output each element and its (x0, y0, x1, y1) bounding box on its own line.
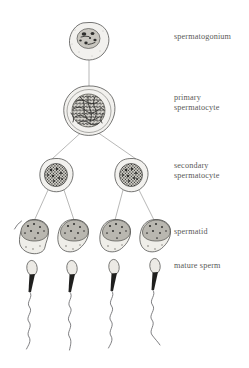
mature-sperm-1-head (26, 260, 38, 276)
spermatogenesis-diagram: spermatogonium primary spermatocyte seco… (0, 0, 249, 368)
label-secondary-spermatocyte-line2: spermatocyte (174, 171, 220, 180)
cell-primary-spermatocyte (64, 86, 115, 135)
cell-mature-sperm-2 (66, 260, 78, 350)
cell-secondary-spermatocyte-right (115, 158, 148, 191)
mature-sperm-3-flagellum (109, 291, 113, 348)
mature-sperm-4-flagellum (151, 290, 160, 345)
mature-sperm-2-midpiece (69, 274, 76, 292)
cell-spermatogonium (69, 22, 108, 60)
mature-sperm-2-flagellum (68, 292, 71, 350)
cell-spermatid-3 (100, 219, 131, 251)
connector-secondary-left-to-spermatid-2 (64, 190, 74, 220)
cell-mature-sperm-1 (26, 260, 38, 349)
cell-spermatid-2 (58, 219, 89, 251)
label-spermatid: spermatid (174, 227, 208, 236)
mature-sperm-2-head (66, 260, 78, 276)
connector-secondary-left-to-spermatid-1 (35, 190, 49, 220)
label-mature-sperm: mature sperm (174, 261, 221, 270)
diagram-canvas: spermatogonium primary spermatocyte seco… (0, 0, 249, 368)
cell-secondary-spermatocyte-left (40, 158, 73, 191)
connector-secondary-right-to-spermatid-4 (139, 190, 154, 220)
cell-mature-sperm-4 (149, 258, 161, 345)
connector-secondary-right-to-spermatid-3 (115, 190, 123, 220)
mature-sperm-4-midpiece (152, 272, 159, 290)
spermatid-1-nascent-tail (15, 221, 22, 229)
spermatogonium-nucleus (77, 29, 100, 49)
mature-sperm-1-midpiece (29, 274, 36, 292)
label-primary-spermatocyte-line2: spermatocyte (174, 103, 220, 112)
stage-labels: spermatogonium primary spermatocyte seco… (174, 32, 232, 270)
label-spermatogonium: spermatogonium (174, 32, 232, 41)
mature-sperm-3-midpiece (111, 273, 118, 291)
mature-sperm-3-head (108, 259, 120, 275)
cell-spermatid-4 (140, 219, 171, 251)
connector-primary-to-secondary-right (99, 133, 137, 159)
mature-sperm-1-flagellum (27, 292, 31, 349)
cell-mature-sperm-3 (108, 259, 120, 348)
cell-spermatid-1 (15, 219, 49, 253)
primary-spermatocyte-nucleus (72, 94, 105, 127)
connector-primary-to-secondary-left (52, 133, 81, 159)
label-primary-spermatocyte-line1: primary (174, 93, 202, 102)
mature-sperm-4-head (149, 258, 161, 274)
lineage-connectors (35, 60, 155, 220)
label-secondary-spermatocyte-line1: secondary (174, 161, 209, 170)
